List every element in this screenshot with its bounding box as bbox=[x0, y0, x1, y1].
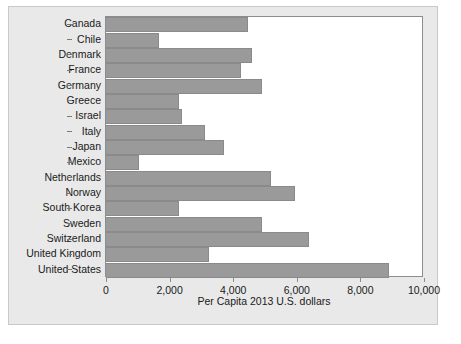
bar-fill bbox=[106, 232, 309, 247]
bar-fill bbox=[106, 79, 262, 94]
x-axis-tick-mark bbox=[233, 278, 234, 282]
plot-area: 02,0004,0006,0008,00010,000 bbox=[105, 16, 423, 277]
y-axis-tick-mark bbox=[67, 39, 72, 40]
bar-fill bbox=[106, 201, 179, 216]
y-axis-tick-label: Israel bbox=[0, 110, 101, 121]
y-axis-tick-label: United States bbox=[0, 264, 101, 275]
y-axis-tick-label: Greece bbox=[0, 95, 101, 106]
y-axis-tick-label: Switzerland bbox=[0, 233, 101, 244]
bar-fill bbox=[106, 17, 248, 32]
bar-fill bbox=[106, 125, 205, 140]
y-axis-tick-label: Denmark bbox=[0, 49, 101, 60]
y-axis: CanadaChileDenmarkFranceGermanyGreeceIsr… bbox=[0, 16, 101, 277]
y-axis-tick-mark bbox=[67, 269, 72, 270]
y-axis-tick-label: Mexico bbox=[0, 156, 101, 167]
bar-fill bbox=[106, 171, 271, 186]
y-axis-tick-mark bbox=[67, 100, 72, 101]
y-axis-tick-mark bbox=[67, 223, 72, 224]
y-axis-tick-mark bbox=[67, 177, 72, 178]
bar-fill bbox=[106, 109, 182, 124]
x-axis-tick-mark bbox=[170, 278, 171, 282]
chart-panel: 02,0004,0006,0008,00010,000 CanadaChileD… bbox=[8, 6, 438, 325]
y-axis-tick-label: Italy bbox=[0, 126, 101, 137]
y-axis-tick-mark bbox=[67, 193, 72, 194]
bar-fill bbox=[106, 217, 262, 232]
bar-fill bbox=[106, 263, 389, 278]
bar-fill bbox=[106, 155, 139, 170]
bar-fill bbox=[106, 33, 159, 48]
x-axis-tick-mark bbox=[424, 278, 425, 282]
bar-fill bbox=[106, 63, 241, 78]
y-axis-tick-label: France bbox=[0, 64, 101, 75]
y-axis-tick-mark bbox=[67, 24, 72, 25]
y-axis-tick-label: Japan bbox=[0, 141, 101, 152]
y-axis-tick-mark bbox=[67, 131, 72, 132]
y-axis-tick-mark bbox=[67, 208, 72, 209]
y-axis-tick-mark bbox=[67, 85, 72, 86]
y-axis-tick-label: Norway bbox=[0, 187, 101, 198]
bar-fill bbox=[106, 140, 224, 155]
y-axis-tick-mark bbox=[67, 147, 72, 148]
x-axis-tick-mark bbox=[360, 278, 361, 282]
x-axis-title: Per Capita 2013 U.S. dollars bbox=[105, 295, 423, 307]
y-axis-tick-mark bbox=[67, 162, 72, 163]
x-axis-tick-mark bbox=[106, 278, 107, 282]
y-axis-tick-label: Germany bbox=[0, 80, 101, 91]
y-axis-tick-mark bbox=[67, 116, 72, 117]
bar-fill bbox=[106, 247, 209, 262]
bar-fill bbox=[106, 48, 252, 63]
y-axis-tick-mark bbox=[67, 54, 72, 55]
y-axis-tick-label: Chile bbox=[0, 34, 101, 45]
y-axis-tick-label: South Korea bbox=[0, 202, 101, 213]
y-axis-tick-mark bbox=[67, 254, 72, 255]
y-axis-tick-label: Sweden bbox=[0, 218, 101, 229]
y-axis-tick-label: Canada bbox=[0, 18, 101, 29]
bar-fill bbox=[106, 94, 179, 109]
x-axis-tick-mark bbox=[297, 278, 298, 282]
y-axis-tick-label: Netherlands bbox=[0, 172, 101, 183]
y-axis-tick-mark bbox=[67, 239, 72, 240]
chart-figure: 02,0004,0006,0008,00010,000 CanadaChileD… bbox=[0, 0, 461, 344]
y-axis-tick-label: United Kingdom bbox=[0, 248, 101, 259]
bar-fill bbox=[106, 186, 295, 201]
y-axis-tick-mark bbox=[67, 70, 72, 71]
